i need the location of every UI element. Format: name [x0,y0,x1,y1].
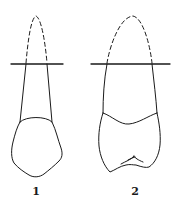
tooth-2-label: 2 [125,185,145,198]
tooth-1-root-left [20,64,26,122]
tooth-1-root-tip-dashed [26,16,47,63]
tooth-1-crown-outline [12,118,62,177]
tooth-diagram-drawing [0,0,178,206]
tooth-2-root-left [103,64,107,113]
tooth-2-crown-outline [99,113,161,172]
tooth-diagram-figure: 1 2 [0,0,178,206]
tooth-2-root-right [152,64,157,113]
tooth-1-root-right [47,64,52,122]
tooth-1-drawing [11,16,63,177]
tooth-1-label: 1 [26,185,46,198]
tooth-2-cej-line [103,113,157,124]
tooth-2-root-tip-dashed [107,16,152,63]
tooth-2-occlusal-fissure [121,156,143,164]
tooth-2-drawing [91,16,170,172]
